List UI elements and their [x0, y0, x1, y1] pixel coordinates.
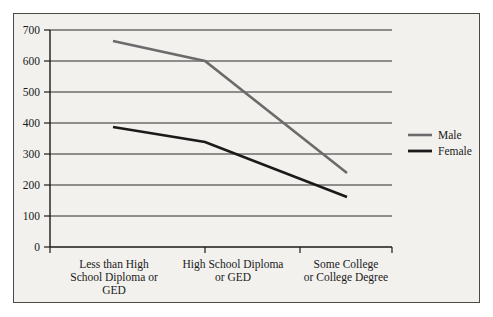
x-category-label-1-line-1: or GED	[215, 271, 251, 283]
ytick-label-0: 0	[34, 241, 40, 253]
ytick-label-700: 700	[23, 24, 41, 36]
chart-legend: Male Female	[408, 129, 472, 157]
x-category-label-1: High School Diploma or GED	[183, 258, 284, 283]
series-line-female	[113, 127, 347, 197]
x-category-label-0-line-0: Less than High	[79, 258, 149, 271]
legend-item-male[interactable]: Male	[408, 129, 462, 141]
legend-label-male: Male	[438, 129, 462, 141]
ytick-label-500: 500	[23, 86, 41, 98]
legend-label-female: Female	[438, 145, 472, 157]
ytick-label-200: 200	[23, 179, 41, 191]
y-tick-marks	[44, 30, 50, 247]
ytick-label-300: 300	[23, 148, 41, 160]
x-category-label-0-line-1: School Diploma or	[70, 271, 158, 284]
ytick-label-100: 100	[23, 210, 41, 222]
x-category-label-2-line-1: or College Degree	[304, 271, 388, 284]
chart-page: 700 600 500 400 300 200 100 0 Less than …	[0, 0, 493, 317]
x-category-label-0: Less than High School Diploma or GED	[70, 258, 158, 296]
x-tick-marks	[50, 247, 392, 253]
ytick-label-400: 400	[23, 117, 41, 129]
line-chart: 700 600 500 400 300 200 100 0 Less than …	[0, 0, 493, 317]
legend-item-female[interactable]: Female	[408, 145, 472, 157]
x-category-label-2: Some College or College Degree	[304, 258, 388, 284]
x-category-label-2-line-0: Some College	[314, 258, 379, 271]
ytick-label-600: 600	[23, 55, 41, 67]
x-category-label-0-line-2: GED	[102, 284, 126, 296]
gridlines	[50, 30, 392, 216]
x-category-label-1-line-0: High School Diploma	[183, 258, 284, 271]
